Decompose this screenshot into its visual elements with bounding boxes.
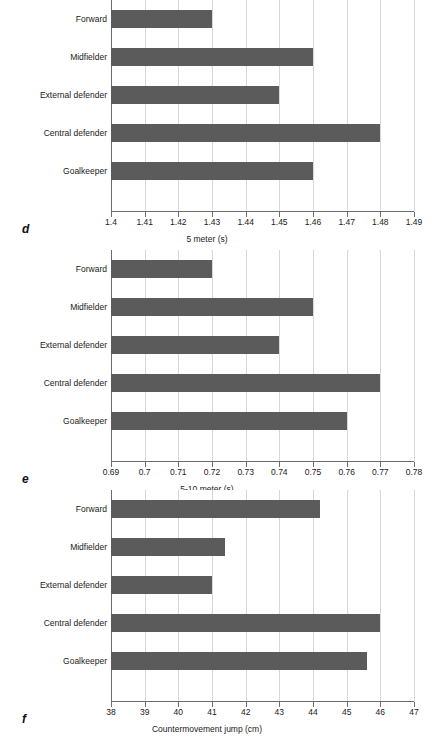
tick-label: 41 <box>207 708 216 717</box>
tick-label: 44 <box>308 708 317 717</box>
category-label: Forward <box>76 15 107 24</box>
right-margin-spacer <box>414 0 448 212</box>
bar <box>111 652 367 670</box>
tick-label: 1.47 <box>338 218 355 227</box>
tick-label: 1.41 <box>136 218 153 227</box>
gridline <box>145 490 146 702</box>
gridlines <box>111 0 414 212</box>
category-label: Forward <box>76 265 107 274</box>
category-label: Forward <box>76 505 107 514</box>
gridline <box>246 490 247 702</box>
tick-label: 1.48 <box>372 218 389 227</box>
gridline <box>380 250 381 462</box>
category-axis-labels: ForwardMidfielderExternal defenderCentra… <box>0 0 111 212</box>
panel-f: ForwardMidfielderExternal defenderCentra… <box>0 490 448 745</box>
multi-panel-bar-chart-figure: ForwardMidfielderExternal defenderCentra… <box>0 0 448 745</box>
gridline <box>178 0 179 212</box>
gridlines <box>111 490 414 702</box>
tick-label: 40 <box>174 708 183 717</box>
bar <box>111 124 380 142</box>
plot-row: ForwardMidfielderExternal defenderCentra… <box>0 490 448 702</box>
y-axis-line <box>111 490 112 702</box>
category-label: Central defender <box>44 129 107 138</box>
gridlines <box>111 250 414 462</box>
panel-d: ForwardMidfielderExternal defenderCentra… <box>0 0 448 250</box>
tick-label: 0.75 <box>305 468 322 477</box>
tick-label: 43 <box>275 708 284 717</box>
tick-label: 39 <box>140 708 149 717</box>
category-label: Goalkeeper <box>63 657 107 666</box>
gridline <box>279 250 280 462</box>
panel-letter: d <box>22 222 29 236</box>
gridline <box>380 490 381 702</box>
category-label: Central defender <box>44 619 107 628</box>
gridline <box>145 250 146 462</box>
tick-label: 0.7 <box>139 468 151 477</box>
tick-label: 0.73 <box>237 468 254 477</box>
x-axis-tick-labels-row: 1.41.411.421.431.441.451.461.471.481.49 <box>0 217 448 231</box>
tick-label: 1.44 <box>237 218 254 227</box>
bar <box>111 336 279 354</box>
x-axis-tick-labels-row: 0.690.70.710.720.730.740.750.760.770.78 <box>0 467 448 481</box>
gridline <box>178 250 179 462</box>
bar <box>111 538 225 556</box>
gridline <box>246 0 247 212</box>
plot-row: ForwardMidfielderExternal defenderCentra… <box>0 0 448 212</box>
tick-label: 0.71 <box>170 468 187 477</box>
category-axis-labels: ForwardMidfielderExternal defenderCentra… <box>0 250 111 462</box>
tick-label: 1.45 <box>271 218 288 227</box>
bar <box>111 576 212 594</box>
bar <box>111 10 212 28</box>
bar <box>111 374 380 392</box>
gridline <box>347 0 348 212</box>
gridline <box>347 490 348 702</box>
tick-label: 47 <box>409 708 418 717</box>
y-axis-line <box>111 250 112 462</box>
tick-label: 0.72 <box>204 468 221 477</box>
tick-label: 0.77 <box>372 468 389 477</box>
tick-label: 38 <box>106 708 115 717</box>
tick-label: 46 <box>376 708 385 717</box>
right-margin-spacer <box>414 250 448 462</box>
gridline <box>246 250 247 462</box>
tick-label: 0.78 <box>406 468 423 477</box>
gridline <box>279 0 280 212</box>
bar <box>111 500 320 518</box>
bar <box>111 86 279 104</box>
category-label: Central defender <box>44 379 107 388</box>
panel-letter: e <box>22 472 29 486</box>
y-axis-line <box>111 0 112 212</box>
gridline <box>313 0 314 212</box>
right-margin-spacer <box>414 490 448 702</box>
tick-label-left-spacer <box>0 467 111 481</box>
category-label: External defender <box>40 341 107 350</box>
x-axis-tick-labels-row: 38394041424344454647 <box>0 707 448 721</box>
bar <box>111 298 313 316</box>
tick-label: 0.74 <box>271 468 288 477</box>
gridline <box>145 0 146 212</box>
tick-label: 1.4 <box>105 218 117 227</box>
tick-label: 1.43 <box>204 218 221 227</box>
gridline <box>313 250 314 462</box>
bar <box>111 412 347 430</box>
tick-label: 45 <box>342 708 351 717</box>
bar <box>111 614 380 632</box>
tick-label: 1.49 <box>406 218 423 227</box>
panel-letter: f <box>22 712 26 726</box>
category-label: Goalkeeper <box>63 417 107 426</box>
tick-labels: 0.690.70.710.720.730.740.750.760.770.78 <box>111 467 414 481</box>
gridline <box>279 490 280 702</box>
plot-area <box>111 250 414 462</box>
gridline <box>178 490 179 702</box>
tick-label: 42 <box>241 708 250 717</box>
category-label: External defender <box>40 91 107 100</box>
bar <box>111 48 313 66</box>
x-axis-title: 5 meter (s) <box>0 234 414 244</box>
category-axis-labels: ForwardMidfielderExternal defenderCentra… <box>0 490 111 702</box>
tick-label-left-spacer <box>0 707 111 721</box>
tick-labels: 1.41.411.421.431.441.451.461.471.481.49 <box>111 217 414 231</box>
gridline <box>347 250 348 462</box>
plot-area <box>111 490 414 702</box>
bar <box>111 162 313 180</box>
tick-label: 1.42 <box>170 218 187 227</box>
